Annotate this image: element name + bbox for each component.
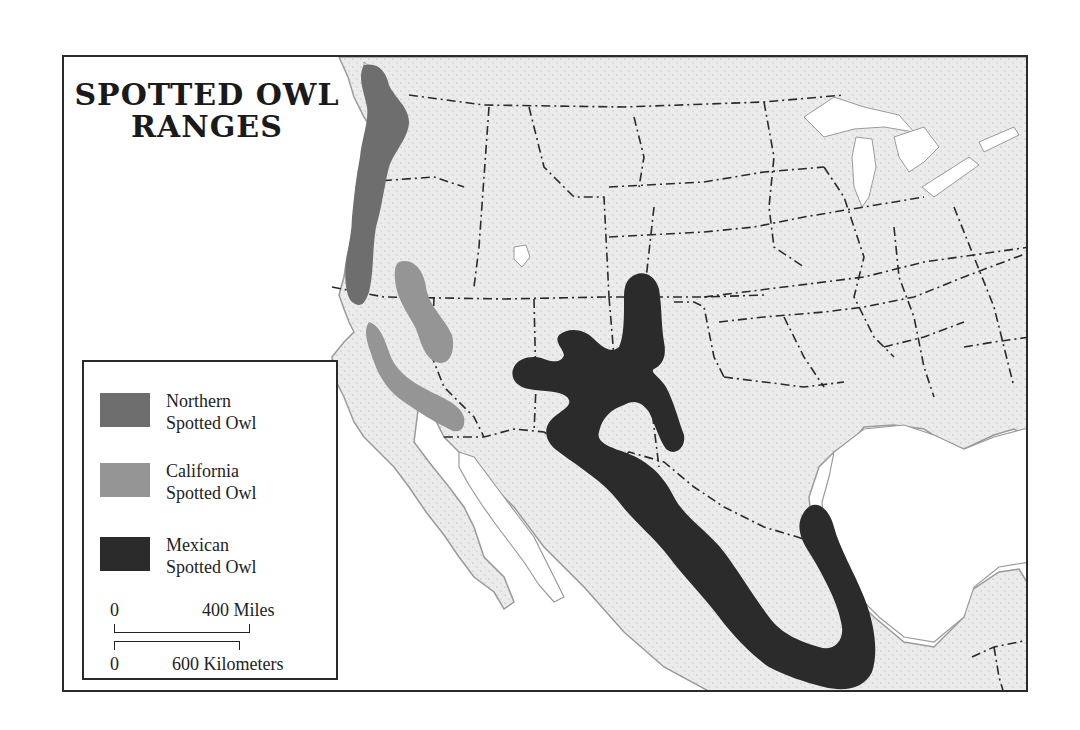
legend-label-mexican: Mexican Spotted Owl (166, 534, 257, 578)
california-swatch-icon (100, 463, 150, 497)
legend-item-northern: Northern Spotted Owl (100, 390, 330, 438)
title-line-2: RANGES (72, 111, 342, 143)
legend-item-california: California Spotted Owl (100, 460, 330, 508)
legend-label-california: California Spotted Owl (166, 460, 257, 504)
mexican-swatch-icon (100, 537, 150, 571)
scale-km-label: 600 Kilometers (172, 654, 283, 675)
legend-label-northern: Northern Spotted Owl (166, 390, 257, 434)
scale-km-zero: 0 (110, 654, 119, 675)
map-title: SPOTTED OWL RANGES (72, 79, 342, 143)
scale-bar: 0 400 Miles 0 600 Kilometers (110, 600, 330, 680)
map-frame: SPOTTED OWL RANGES Northern Spotted Owl … (62, 55, 1028, 692)
map-legend: Northern Spotted Owl California Spotted … (82, 360, 338, 680)
title-line-1: SPOTTED OWL (72, 79, 342, 111)
scale-miles-label: 400 Miles (202, 600, 275, 621)
scale-miles-zero: 0 (110, 600, 119, 621)
scale-miles-bar (114, 624, 250, 633)
northern-swatch-icon (100, 393, 150, 427)
legend-item-mexican: Mexican Spotted Owl (100, 534, 330, 582)
scale-km-bar (114, 641, 240, 650)
